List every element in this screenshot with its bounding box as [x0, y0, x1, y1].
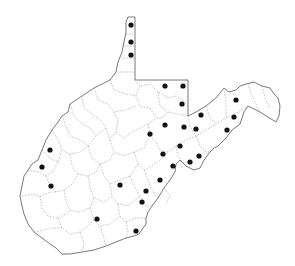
- occurrence-dot: [133, 228, 138, 233]
- occurrence-dot: [170, 163, 175, 168]
- occurrence-dot: [128, 22, 133, 27]
- occurrence-dot: [193, 126, 198, 131]
- occurrence-dot: [117, 182, 122, 187]
- occurrence-dot: [180, 83, 185, 88]
- occurrence-dot: [187, 159, 192, 164]
- occurrence-dot: [179, 101, 184, 106]
- occurrence-dot: [143, 188, 148, 193]
- occurrence-dot: [128, 39, 133, 44]
- occurrence-dot: [177, 143, 182, 148]
- occurrence-dot: [160, 151, 165, 156]
- occurrence-dot: [94, 216, 99, 221]
- occurrence-dot: [48, 183, 53, 188]
- west-virginia-map: [0, 0, 295, 266]
- occurrence-dot: [196, 153, 201, 158]
- occurrence-dot: [162, 83, 167, 88]
- occurrence-dot: [233, 97, 238, 102]
- occurrence-dot: [224, 127, 229, 132]
- occurrence-dot: [181, 124, 186, 129]
- occurrence-dot: [198, 112, 203, 117]
- occurrence-dot: [39, 164, 44, 169]
- occurrence-dot: [162, 122, 167, 127]
- occurrence-dot: [128, 52, 133, 57]
- occurrence-dot: [157, 177, 162, 182]
- occurrence-dot: [147, 131, 152, 136]
- map-container: [0, 0, 295, 266]
- occurrence-dot: [139, 199, 144, 204]
- occurrence-dot: [47, 147, 52, 152]
- occurrence-dot: [231, 114, 236, 119]
